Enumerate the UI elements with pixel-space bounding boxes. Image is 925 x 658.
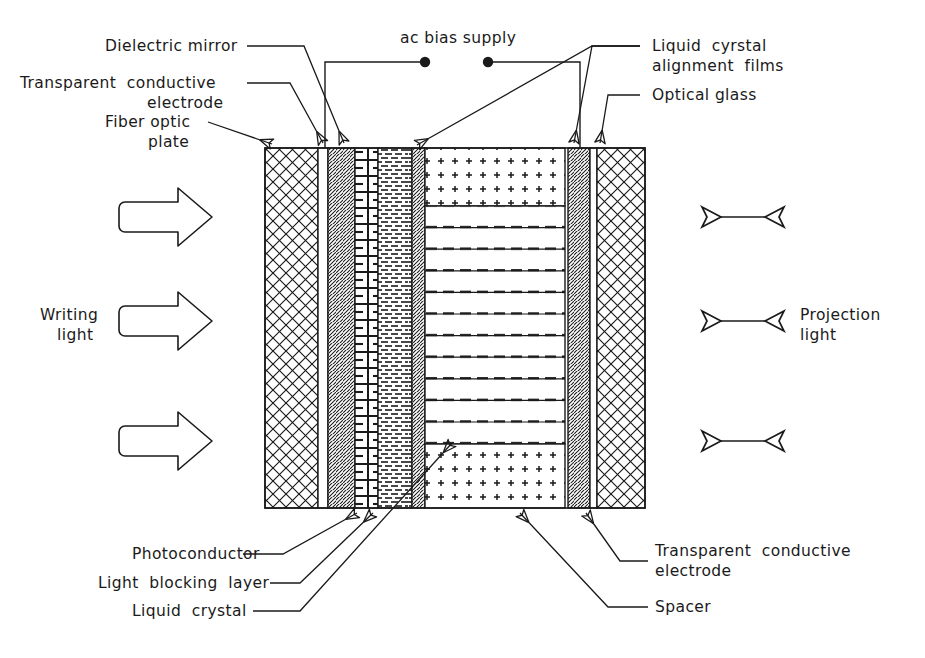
light-valve-cross-section-figure: ac bias supply Writing light Projection … <box>0 0 925 658</box>
layer-light-blocking-layer <box>355 148 378 508</box>
leader-photoconductor <box>243 513 357 554</box>
writing-light-arrow-3 <box>119 412 212 470</box>
label-spacer: Spacer <box>655 598 711 616</box>
bottom-right-leaders <box>520 513 648 607</box>
spacer-region-bottom <box>425 444 565 508</box>
leader-transparent-conductive-electrode-right <box>586 513 648 561</box>
layer-fiber-optic-plate <box>265 148 318 508</box>
layer-transparent-conductive-electrode-left <box>318 148 328 508</box>
projection-light-arrow-1 <box>702 207 784 227</box>
label-liquid-crystal-alignment-films-line2: alignment films <box>652 57 784 75</box>
leader-alignment-film-left <box>417 46 640 145</box>
label-liquid-crystal: Liquid crystal <box>132 602 247 620</box>
layer-alignment-film-right <box>568 148 590 508</box>
label-photoconductor: Photoconductor <box>132 545 260 563</box>
writing-light-arrows <box>119 188 212 470</box>
leader-fiber-optic-plate <box>208 122 272 144</box>
label-fiber-optic-plate-line2: plate <box>148 133 189 151</box>
label-transparent-conductive-electrode-line1: Transparent conductive <box>19 74 216 92</box>
projection-light-arrow-3 <box>702 431 784 451</box>
bias-terminal-right-dot <box>483 57 493 67</box>
top-left-leaders <box>208 46 344 144</box>
label-optical-glass: Optical glass <box>652 86 757 104</box>
top-right-leaders <box>417 46 640 145</box>
projection-light-label-line2: light <box>800 326 836 344</box>
layer-dielectric-mirror <box>328 148 355 508</box>
projection-light-label-line1: Projection <box>800 306 881 324</box>
bias-terminal-left-dot <box>420 57 430 67</box>
leader-spacer <box>520 513 648 607</box>
spacer-region-top <box>425 148 565 206</box>
leader-optical-glass <box>600 95 640 143</box>
projection-light-arrow-2 <box>702 311 784 331</box>
layer-liquid-crystal <box>425 206 565 444</box>
layer-alignment-film-left <box>412 148 425 508</box>
writing-light-arrow-1 <box>119 188 212 246</box>
writing-light-label-line2: light <box>57 326 93 344</box>
layer-optical-glass <box>597 148 645 508</box>
bias-wire-left <box>325 62 425 148</box>
label-light-blocking-layer: Light blocking layer <box>98 574 269 592</box>
writing-light-label-line1: Writing <box>40 306 98 324</box>
bias-wire-right <box>488 62 580 148</box>
label-fiber-optic-plate-line1: Fiber optic <box>105 113 190 131</box>
layer-transparent-conductive-electrode-right <box>590 148 597 508</box>
leader-dielectric-mirror <box>247 46 344 143</box>
ac-bias-supply-label: ac bias supply <box>400 29 516 47</box>
label-transparent-conductive-electrode-line2: electrode <box>147 94 223 112</box>
device-stack <box>265 148 645 508</box>
writing-light-arrow-2 <box>119 292 212 350</box>
label-liquid-crystal-alignment-films-line1: Liquid cyrstal <box>652 37 767 55</box>
label-transparent-conductive-electrode-2-line2: electrode <box>655 562 731 580</box>
leader-transparent-conductive-electrode <box>247 83 323 143</box>
label-dielectric-mirror: Dielectric mirror <box>105 37 238 55</box>
projection-light-arrows <box>702 207 784 451</box>
diagram-root: ac bias supply Writing light Projection … <box>0 0 925 658</box>
layer-photoconductor <box>378 148 412 508</box>
label-transparent-conductive-electrode-2-line1: Transparent conductive <box>654 542 851 560</box>
